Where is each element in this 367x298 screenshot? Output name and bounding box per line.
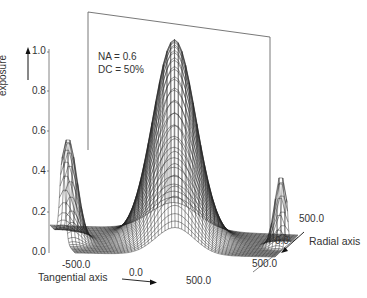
- y-axis-title: Radial axis: [309, 236, 360, 247]
- annotation-dc: DC = 50%: [98, 63, 144, 76]
- z-axis: [47, 49, 49, 253]
- z-axis-title-text: exposure: [0, 55, 8, 96]
- x-tick-neg500: -500.0: [62, 260, 90, 270]
- z-arrow-icon: [26, 47, 31, 80]
- mesh-lines: [50, 40, 298, 258]
- y-tick-near-500: 500.0: [252, 259, 277, 269]
- x-tick-0: 0.0: [129, 268, 143, 278]
- z-tick-0.0: 0.0: [32, 247, 46, 257]
- x-tick-500: 500.0: [186, 276, 211, 286]
- y-tick-0: 0.0: [275, 236, 289, 246]
- z-tick-0.8: 0.8: [32, 86, 46, 96]
- surface-mesh: [50, 40, 298, 258]
- surface-plot: [0, 0, 367, 298]
- z-tick-0.2: 0.2: [32, 207, 46, 217]
- tangential-arrow-icon: [122, 279, 157, 285]
- x-axis-title: Tangential axis: [38, 272, 107, 283]
- z-tick-0.6: 0.6: [32, 126, 46, 136]
- y-tick-far-500: 500.0: [299, 214, 324, 224]
- z-axis-title: exposure: [4, 46, 16, 106]
- z-tick-1.0: 1.0: [32, 46, 46, 56]
- annotation-na: NA = 0.6: [98, 50, 137, 63]
- z-tick-0.4: 0.4: [32, 166, 46, 176]
